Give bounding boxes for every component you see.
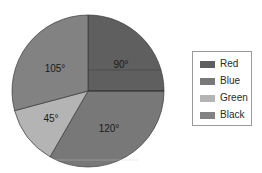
legend-swatch-blue [200, 78, 215, 85]
pie-slice-red [88, 15, 164, 91]
legend-swatch-black [200, 112, 215, 119]
legend-item-green: Green [200, 92, 248, 104]
slice-label-black: 105° [45, 63, 66, 74]
slice-label-blue: 120° [99, 123, 120, 134]
legend-item-blue: Blue [200, 75, 240, 87]
legend-label-blue: Blue [220, 75, 240, 87]
slice-label-red: 90° [113, 59, 128, 70]
legend-label-black: Black [220, 109, 244, 121]
legend-item-black: Black [200, 109, 244, 121]
legend: Red Blue Green Black [192, 51, 252, 126]
legend-swatch-green [200, 95, 215, 102]
legend-label-red: Red [220, 58, 238, 70]
legend-item-red: Red [200, 58, 238, 70]
legend-swatch-red [200, 61, 215, 68]
slice-label-green: 45° [43, 113, 58, 124]
legend-label-green: Green [220, 92, 248, 104]
